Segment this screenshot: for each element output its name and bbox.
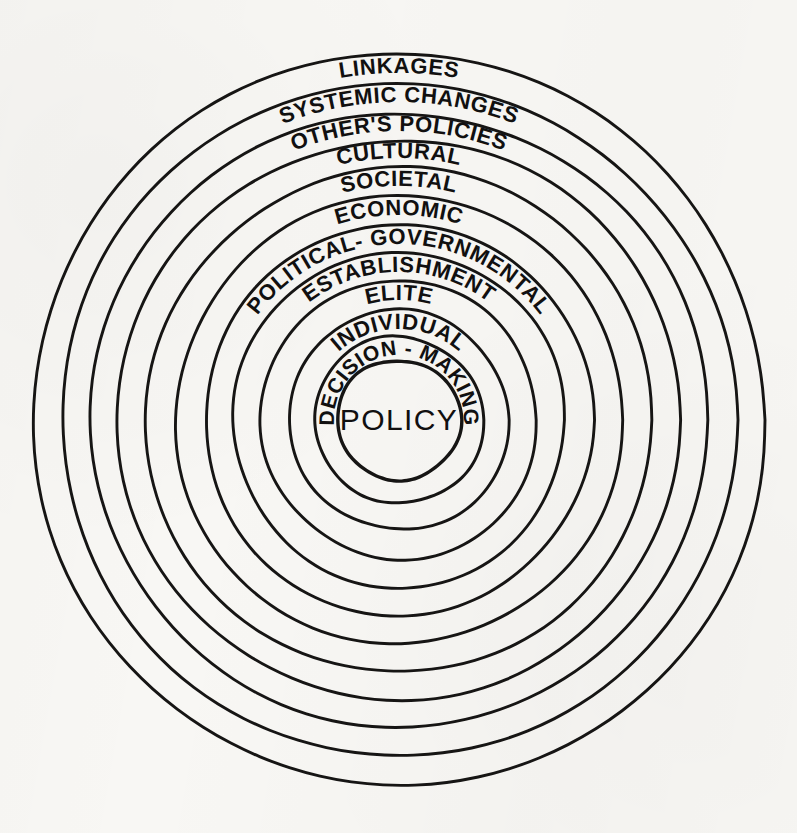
ring-label-1: LINKAGES	[337, 53, 461, 83]
diagram-canvas: LINKAGESSYSTEMIC CHANGESOTHER'S POLICIES…	[0, 0, 797, 833]
ring-label-5: SOCIETAL	[338, 166, 460, 198]
ring-label-9: ELITE	[362, 280, 435, 309]
concentric-circles-diagram: LINKAGESSYSTEMIC CHANGESOTHER'S POLICIES…	[0, 0, 797, 833]
ring-label-text-5: SOCIETAL	[338, 166, 460, 198]
ring-labels-group: LINKAGESSYSTEMIC CHANGESOTHER'S POLICIES…	[242, 53, 557, 426]
ring-label-text-1: LINKAGES	[337, 53, 461, 83]
ring-label-text-9: ELITE	[362, 280, 435, 309]
center-policy-label: POLICY	[340, 403, 458, 436]
